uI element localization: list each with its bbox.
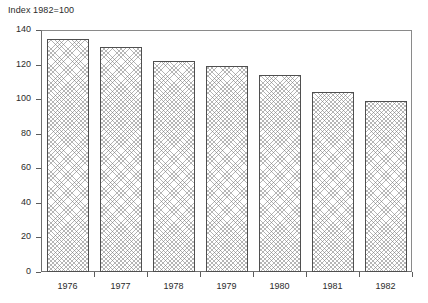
y-axis-tick-label: 80	[21, 128, 31, 138]
y-axis-tick-label: 20	[21, 231, 31, 241]
y-axis-tick-mark	[36, 237, 41, 238]
bar	[153, 61, 195, 272]
x-axis-tick-label: 1981	[306, 281, 359, 291]
bar	[312, 92, 354, 272]
x-axis-tick-mark	[253, 272, 254, 277]
x-axis-tick-mark	[359, 272, 360, 277]
x-axis-tick-label: 1977	[94, 281, 147, 291]
y-axis-tick-label: 100	[16, 93, 31, 103]
x-axis-tick-mark	[200, 272, 201, 277]
bar	[365, 101, 407, 272]
bar	[47, 39, 89, 272]
x-axis-tick-label: 1976	[41, 281, 94, 291]
x-axis-tick-mark	[412, 272, 413, 277]
y-axis-tick-label: 120	[16, 59, 31, 69]
x-axis-tick-label: 1980	[253, 281, 306, 291]
x-axis-tick-mark	[306, 272, 307, 277]
y-axis-tick-label: 0	[26, 266, 31, 276]
chart-axis-title: Index 1982=100	[8, 5, 74, 15]
y-axis-tick-mark	[36, 99, 41, 100]
x-axis-tick-mark	[94, 272, 95, 277]
x-axis-tick-mark	[147, 272, 148, 277]
bar	[259, 75, 301, 272]
bar-chart: Index 1982=100 020406080100120140 197619…	[0, 0, 428, 303]
y-axis-tick-mark	[36, 65, 41, 66]
x-axis-tick-label: 1982	[359, 281, 412, 291]
y-axis-tick-label: 140	[16, 24, 31, 34]
y-axis-tick-mark	[36, 272, 41, 273]
y-axis-tick-mark	[36, 203, 41, 204]
bar	[100, 47, 142, 272]
y-axis-tick-mark	[36, 168, 41, 169]
x-axis-tick-label: 1978	[147, 281, 200, 291]
y-axis-tick-label: 60	[21, 162, 31, 172]
bar	[206, 66, 248, 272]
y-axis-tick-label: 40	[21, 197, 31, 207]
x-axis-tick-label: 1979	[200, 281, 253, 291]
y-axis-tick-mark	[36, 134, 41, 135]
y-axis-tick-mark	[36, 30, 41, 31]
